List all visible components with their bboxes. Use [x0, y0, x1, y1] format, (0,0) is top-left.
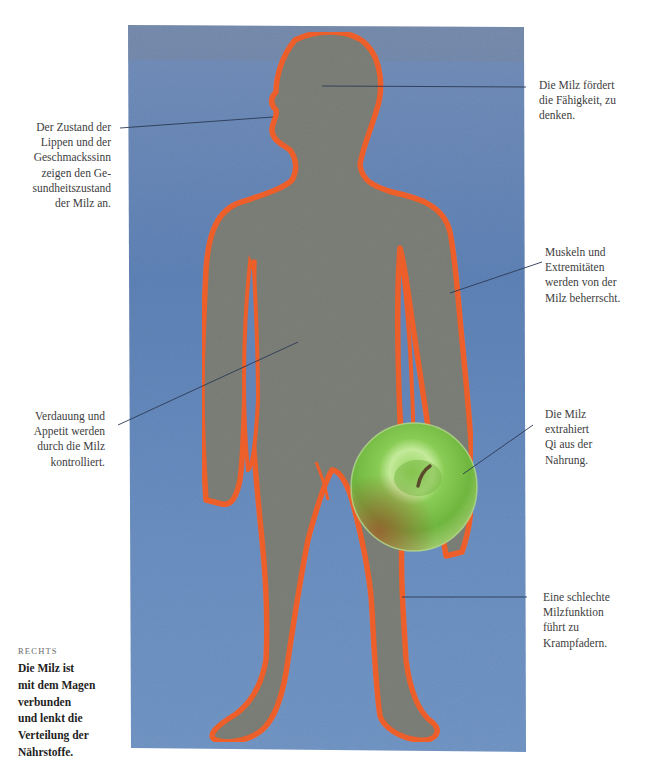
- sidebar-kicker: RECHTS: [18, 646, 128, 656]
- annotation-qi: Die Milz extrahiert Qi aus der Nahrung.: [545, 407, 635, 468]
- sidebar-text: Die Milz ist mit dem Magen verbunden und…: [18, 660, 128, 761]
- annotation-digestion: Verdauung und Appetit werden durch die M…: [0, 409, 105, 470]
- apple-image: [351, 423, 477, 551]
- sidebar-caption: RECHTS Die Milz ist mit dem Magen verbun…: [18, 646, 128, 761]
- annotation-muscles: Muskeln und Extremitäten werden von der …: [545, 245, 645, 306]
- annotation-varicose: Eine schlechte Milzfunktion führt zu Kra…: [543, 590, 643, 651]
- annotation-thinking: Die Milz fördert die Fähigkeit, zu denke…: [539, 78, 639, 124]
- annotation-lips: Der Zustand der Lippen und der Geschmack…: [0, 120, 111, 211]
